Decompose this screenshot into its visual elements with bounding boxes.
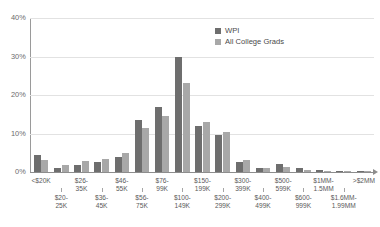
bar-group[interactable] [354, 18, 374, 172]
x-axis-category-label: $20-25K [39, 194, 83, 209]
x-axis-category-label: $400-499K [241, 194, 285, 209]
bar-all-college-grads[interactable] [142, 128, 149, 172]
y-axis-tick-label: 40% [0, 14, 26, 21]
x-axis-category-label: $300-399K [221, 177, 265, 192]
income-distribution-bar-chart: 0%10%20%30%40% <$20K$20-25K$26-35K$36-45… [0, 0, 380, 227]
bar-group[interactable] [112, 18, 132, 172]
bar-all-college-grads[interactable] [162, 116, 169, 172]
bar-all-college-grads[interactable] [41, 160, 48, 172]
x-axis-category-label: $1.6MM-1.99MM [322, 194, 366, 209]
bar-all-college-grads[interactable] [122, 153, 129, 172]
legend-label: WPI [225, 26, 239, 35]
bar-wpi[interactable] [115, 157, 122, 172]
x-axis-category-label: $200-299K [201, 194, 245, 209]
bar-all-college-grads[interactable] [62, 165, 69, 172]
bar-wpi[interactable] [236, 162, 243, 172]
y-axis-tick-label: 0% [0, 168, 26, 175]
x-axis-category-label: $76-99K [140, 177, 184, 192]
legend-label: All College Grads [225, 37, 284, 46]
bar-group[interactable] [334, 18, 354, 172]
bar-all-college-grads[interactable] [82, 161, 89, 172]
bar-wpi[interactable] [34, 155, 41, 172]
bar-wpi[interactable] [74, 165, 81, 172]
y-axis-tick-label: 30% [0, 53, 26, 60]
x-axis-category-label: <$20K [19, 177, 63, 185]
legend-swatch-icon [215, 28, 221, 34]
bar-group[interactable] [92, 18, 112, 172]
x-axis-category-label: $36-45K [80, 194, 124, 209]
bar-group[interactable] [132, 18, 152, 172]
bar-group[interactable] [313, 18, 333, 172]
x-axis-category-label: $600-999K [281, 194, 325, 209]
chart-legend: WPIAll College Grads [215, 26, 284, 46]
x-axis-category-label: $500-599K [261, 177, 305, 192]
legend-swatch-icon [215, 39, 221, 45]
bar-all-college-grads[interactable] [223, 132, 230, 172]
bar-wpi[interactable] [215, 135, 222, 172]
x-axis-tick-mark [344, 188, 345, 192]
x-axis-category-label: $26-35K [59, 177, 103, 192]
bar-group[interactable] [51, 18, 71, 172]
x-axis-category-label: $46-55K [100, 177, 144, 192]
bar-group[interactable] [192, 18, 212, 172]
legend-item-wpi[interactable]: WPI [215, 26, 284, 35]
bar-group[interactable] [293, 18, 313, 172]
bar-all-college-grads[interactable] [102, 159, 109, 172]
x-axis-category-label: $1MM-1.5MM [302, 177, 346, 192]
bar-all-college-grads[interactable] [183, 83, 190, 172]
bar-wpi[interactable] [175, 57, 182, 173]
x-axis-labels: <$20K$20-25K$26-35K$36-45K$46-55K$56-75K… [31, 174, 374, 227]
bar-series-container [31, 18, 374, 172]
legend-item-all-college-grads[interactable]: All College Grads [215, 37, 284, 46]
y-axis-tick-label: 10% [0, 130, 26, 137]
y-axis-tick-label: 20% [0, 91, 26, 98]
x-axis-category-label: >$2MM [342, 177, 380, 185]
x-axis-category-label: $56-75K [120, 194, 164, 209]
bar-group[interactable] [152, 18, 172, 172]
bar-wpi[interactable] [195, 126, 202, 172]
x-axis-category-label: $100-149K [160, 194, 204, 209]
x-axis-line [30, 172, 374, 173]
bar-wpi[interactable] [155, 107, 162, 172]
bar-all-college-grads[interactable] [243, 160, 250, 172]
bar-group[interactable] [172, 18, 192, 172]
bar-wpi[interactable] [135, 120, 142, 172]
bar-group[interactable] [31, 18, 51, 172]
bar-wpi[interactable] [276, 164, 283, 172]
x-axis-category-label: $150-199K [181, 177, 225, 192]
bar-wpi[interactable] [94, 162, 101, 172]
bar-group[interactable] [71, 18, 91, 172]
bar-all-college-grads[interactable] [203, 122, 210, 172]
